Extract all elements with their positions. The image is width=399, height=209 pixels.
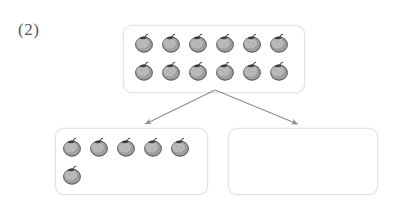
persimmon-fruit-icon (160, 31, 182, 54)
persimmon-fruit-icon (214, 59, 236, 82)
arrow-to-right-part-icon (215, 90, 298, 124)
worksheet-canvas: (2) (0, 0, 399, 209)
total-group-row-0 (133, 31, 295, 54)
persimmon-fruit-icon (133, 31, 155, 54)
part-left-items (56, 129, 207, 194)
persimmon-fruit-icon (88, 135, 110, 158)
persimmon-fruit-icon (115, 135, 137, 158)
persimmon-fruit-icon (133, 59, 155, 82)
persimmon-fruit-icon (187, 59, 209, 82)
persimmon-fruit-icon (61, 135, 83, 158)
persimmon-fruit-icon (268, 31, 290, 54)
persimmon-fruit-icon (214, 31, 236, 54)
total-group-box[interactable] (123, 25, 305, 93)
persimmon-fruit-icon (61, 163, 83, 186)
arrow-to-left-part-icon (145, 90, 215, 124)
problem-number-label: (2) (18, 21, 39, 38)
persimmon-fruit-icon (169, 135, 191, 158)
persimmon-fruit-icon (241, 59, 263, 82)
part-group-box-right-empty-answer[interactable] (228, 128, 378, 195)
part-right-items (229, 129, 377, 194)
total-group-row-1 (133, 59, 295, 82)
part-left-row-0 (61, 135, 196, 158)
total-group-items (124, 26, 304, 92)
persimmon-fruit-icon (160, 59, 182, 82)
persimmon-fruit-icon (241, 31, 263, 54)
persimmon-fruit-icon (187, 31, 209, 54)
persimmon-fruit-icon (268, 59, 290, 82)
part-left-row-1 (61, 163, 88, 186)
persimmon-fruit-icon (142, 135, 164, 158)
part-group-box-left[interactable] (55, 128, 208, 195)
